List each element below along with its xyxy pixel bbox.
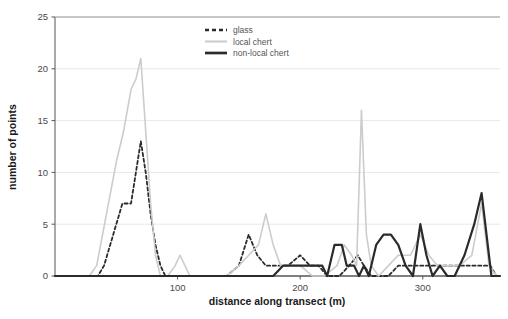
x-tick-label: 100: [170, 282, 186, 293]
chart-figure: 0510152025 100200300 distance along tran…: [0, 0, 508, 319]
legend-label-local-chert: local chert: [233, 37, 272, 47]
chart-legend: glasslocal chertnon-local chert: [205, 25, 289, 58]
series-line-local-chert: [55, 58, 500, 276]
legend-label-non-local-chert: non-local chert: [233, 48, 289, 58]
legend-label-glass: glass: [233, 25, 253, 35]
y-tick-label: 0: [43, 270, 48, 281]
y-tick-label: 25: [37, 11, 48, 22]
line-chart: 0510152025 100200300 distance along tran…: [0, 0, 508, 319]
y-tick-label: 15: [37, 115, 48, 126]
x-tick-label: 200: [292, 282, 308, 293]
x-axis-ticks: 100200300: [170, 276, 431, 293]
y-axis-title: number of points: [6, 104, 18, 190]
data-series-group: [55, 58, 500, 276]
y-tick-label: 10: [37, 167, 48, 178]
x-tick-label: 300: [415, 282, 431, 293]
x-axis-title: distance along transect (m): [209, 295, 346, 307]
y-tick-label: 20: [37, 63, 48, 74]
y-tick-label: 5: [43, 219, 48, 230]
y-axis-ticks: 0510152025: [37, 11, 55, 281]
